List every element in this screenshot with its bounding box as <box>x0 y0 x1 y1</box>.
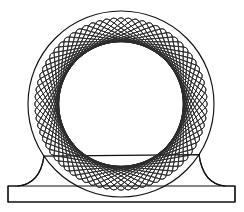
line-drawing-canvas <box>0 0 244 212</box>
figure-root <box>0 0 244 212</box>
